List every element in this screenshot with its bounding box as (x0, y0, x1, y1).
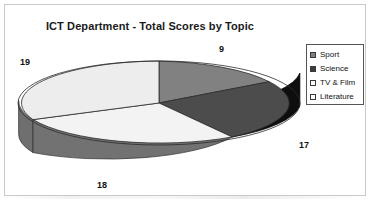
chart-legend: Sport Science TV & Film Literature (306, 44, 364, 105)
data-label-sport: 9 (219, 44, 224, 54)
data-label-literature: 19 (20, 57, 30, 67)
legend-label-literature: Literature (320, 93, 354, 101)
data-label-science: 17 (299, 140, 309, 150)
legend-item-literature: Literature (310, 90, 361, 104)
legend-item-science: Science (310, 62, 361, 76)
chart-title: ICT Department - Total Scores by Topic (0, 20, 300, 32)
legend-swatch-literature (310, 94, 316, 100)
legend-label-sport: Sport (320, 51, 339, 59)
legend-label-science: Science (320, 65, 348, 73)
legend-swatch-sport (310, 52, 316, 58)
data-label-tvfilm: 18 (97, 180, 107, 190)
legend-item-tvfilm: TV & Film (310, 76, 361, 90)
legend-item-sport: Sport (310, 48, 361, 62)
legend-swatch-science (310, 66, 316, 72)
legend-swatch-tvfilm (310, 80, 316, 86)
legend-label-tvfilm: TV & Film (320, 79, 355, 87)
scan-artifact (4, 196, 366, 199)
